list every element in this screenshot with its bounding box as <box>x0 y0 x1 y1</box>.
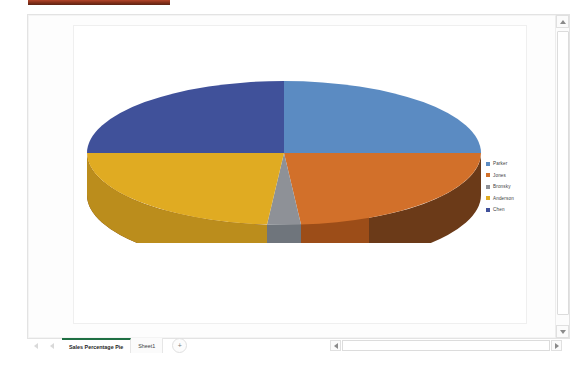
chart-plot-area: Parker Jones Bronsky Anderson Chen <box>74 26 526 323</box>
legend-label: Jones <box>493 173 506 178</box>
scroll-up-button[interactable] <box>556 15 569 28</box>
left-arrow-icon <box>334 343 338 349</box>
up-arrow-icon <box>560 20 566 24</box>
horizontal-scrollbar[interactable] <box>330 340 562 351</box>
sheet-tab-label: Sheet1 <box>138 343 155 349</box>
worksheet-area: Parker Jones Bronsky Anderson Chen <box>27 14 570 339</box>
legend-swatch-icon <box>486 185 490 189</box>
legend-item[interactable]: Anderson <box>486 196 514 201</box>
horizontal-scrollbar-thumb[interactable] <box>342 340 550 351</box>
legend-item[interactable]: Bronsky <box>486 184 514 189</box>
sheet-nav-buttons <box>27 341 62 350</box>
sheet-nav-prev-button[interactable] <box>47 341 56 350</box>
scroll-left-button[interactable] <box>330 340 341 351</box>
plus-icon: + <box>178 342 182 349</box>
right-arrow-icon <box>555 343 559 349</box>
scroll-right-button[interactable] <box>551 340 562 351</box>
sheet-tab-label: Sales Percentage Pie <box>69 344 123 350</box>
down-arrow-icon <box>560 330 566 334</box>
legend-item[interactable]: Parker <box>486 161 514 166</box>
legend-swatch-icon <box>486 173 490 177</box>
sheet-tab-sheet1[interactable]: Sheet1 <box>131 338 163 353</box>
legend-label: Bronsky <box>493 184 511 189</box>
vertical-scrollbar[interactable] <box>555 15 569 338</box>
legend-label: Parker <box>493 161 507 166</box>
left-arrow-icon <box>50 343 54 349</box>
legend-item[interactable]: Jones <box>486 173 514 178</box>
pie-chart-3d <box>69 81 499 266</box>
left-arrow-icon <box>34 343 38 349</box>
legend-swatch-icon <box>486 196 490 200</box>
legend-label: Chen <box>493 207 505 212</box>
legend-swatch-icon <box>486 162 490 166</box>
legend-swatch-icon <box>486 208 490 212</box>
ribbon-strip <box>28 0 170 5</box>
add-sheet-button[interactable]: + <box>172 338 187 353</box>
chart-object[interactable]: Parker Jones Bronsky Anderson Chen <box>73 25 527 324</box>
sheet-nav-first-button[interactable] <box>31 341 40 350</box>
vertical-scrollbar-thumb[interactable] <box>557 31 569 315</box>
sheet-tabs: Sales Percentage Pie Sheet1 <box>62 338 163 353</box>
chart-legend: Parker Jones Bronsky Anderson Chen <box>486 161 514 212</box>
sheet-tab-sales-percentage-pie[interactable]: Sales Percentage Pie <box>62 338 131 353</box>
legend-label: Anderson <box>493 196 514 201</box>
pie-top-face <box>87 81 481 225</box>
legend-item[interactable]: Chen <box>486 207 514 212</box>
